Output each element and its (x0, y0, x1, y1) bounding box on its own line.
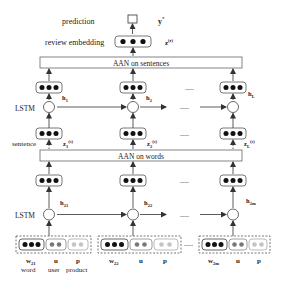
u-label-3: u (236, 257, 240, 265)
word-caption: word (21, 266, 36, 274)
sentence-lstm-cell-1 (44, 102, 55, 113)
h2-label: h2 (146, 94, 153, 103)
sentence-ellipsis-top: ...... (185, 85, 195, 91)
sentence-vector-1 (36, 128, 62, 139)
prediction-label: prediction (62, 17, 94, 26)
aan-words-label: AAN on words (118, 152, 164, 161)
sentence-vector-L (220, 128, 246, 139)
h2m-label: h2m (246, 197, 256, 206)
user-caption: user (48, 266, 60, 274)
w21-label: w21 (26, 257, 36, 266)
sentence-hidden-state-2 (120, 82, 146, 93)
word-lstm-label: LSTM (15, 211, 35, 220)
word-hidden-state-21 (36, 175, 62, 186)
prediction-node (128, 15, 137, 23)
word-hidden-state-2m (220, 175, 246, 186)
word-ellipsis-bottom: ...... (184, 241, 194, 247)
sentence-hidden-state-1 (36, 82, 62, 93)
h1-label: h1 (62, 94, 69, 103)
u-label-1: u (54, 257, 58, 265)
prediction-symbol: y* (158, 16, 165, 26)
sentence-ellipsis-bottom: ...... (180, 131, 190, 137)
aan-sentences-label: AAN on sentences (113, 59, 169, 68)
w2m-label: w2m (208, 257, 219, 266)
hierarchical-attention-diagram: prediction y* review embedding z(r) AAN … (0, 0, 283, 281)
word-input-group-22 (98, 236, 181, 253)
u-label-2: u (139, 257, 143, 265)
word-ellipsis-mid: ...... (180, 212, 190, 218)
word-hidden-state-22 (120, 175, 146, 186)
sentence-hidden-state-L (220, 82, 246, 93)
p-label-3: p (257, 257, 261, 265)
sentence-vector-2 (120, 128, 146, 139)
zL-label: zL(s) (244, 139, 255, 149)
w22-label: w22 (109, 257, 119, 266)
sentence-ellipsis-mid: ...... (180, 104, 190, 110)
h22-label: h22 (144, 199, 153, 208)
z1-label: z1(s) (63, 139, 73, 149)
review-embedding-symbol: z(r) (165, 38, 174, 47)
review-embedding-label: review embedding (45, 38, 104, 47)
hL-label: hL (248, 90, 255, 99)
p-label-1: p (76, 257, 80, 265)
sentence-lstm-label: LSTM (15, 104, 35, 113)
sentence-input-label: sentence (12, 140, 36, 148)
word-lstm-cell-22 (128, 209, 139, 220)
sentence-lstm-cell-2 (128, 102, 139, 113)
product-caption: product (66, 266, 87, 274)
h21-label: h21 (60, 199, 69, 208)
sentence-lstm-cell-L (228, 102, 239, 113)
word-input-group-2m (199, 236, 270, 253)
word-lstm-cell-2m (228, 209, 239, 220)
z2-label: z2(s) (147, 139, 157, 149)
word-ellipsis-top: ...... (180, 178, 190, 184)
word-lstm-cell-21 (44, 209, 55, 220)
word-input-group-21 (16, 236, 91, 253)
p-label-2: p (163, 257, 167, 265)
